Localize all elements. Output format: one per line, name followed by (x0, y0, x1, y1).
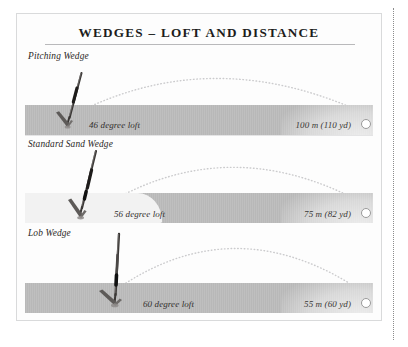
wedge-row: Standard Sand Wedge 56 degree loft 75 m … (17, 136, 381, 225)
distance-value: 100 m (110 yd) (296, 120, 351, 130)
golf-ball-icon (361, 298, 371, 308)
distance-value: 55 m (60 yd) (304, 299, 351, 309)
wedge-name-label: Lob Wedge (28, 228, 71, 238)
wedge-row: Lob Wedge 60 degree loft 55 m (60 yd) (17, 225, 381, 315)
wedge-row: Pitching Wedge 46 (17, 48, 381, 136)
page-title: WEDGES – LOFT AND DISTANCE (17, 25, 381, 41)
title-divider (45, 44, 355, 45)
wedge-name-label: Pitching Wedge (28, 51, 89, 61)
diagram-frame: WEDGES – LOFT AND DISTANCE Pitching Wedg… (16, 13, 382, 321)
golf-ball-icon (361, 208, 371, 218)
loft-value: 56 degree loft (114, 209, 165, 219)
wedges-diagram-page: WEDGES – LOFT AND DISTANCE Pitching Wedg… (0, 0, 408, 347)
loft-value: 60 degree loft (143, 299, 194, 309)
wedge-name-label: Standard Sand Wedge (28, 139, 113, 149)
margin-dotted-rule (393, 8, 394, 340)
loft-value: 46 degree loft (89, 120, 140, 130)
golf-ball-icon (361, 119, 371, 129)
distance-value: 75 m (82 yd) (304, 209, 351, 219)
